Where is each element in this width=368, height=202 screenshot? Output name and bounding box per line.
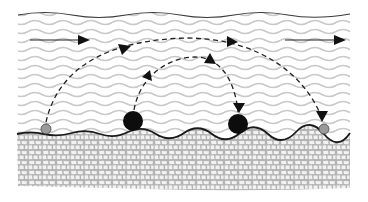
water-column (18, 13, 350, 135)
small-particle-end (319, 124, 329, 134)
large-particle-start (123, 111, 143, 131)
large-particle-end (228, 114, 248, 134)
saltation-diagram (0, 0, 368, 202)
small-particle-start (41, 124, 51, 134)
diagram-svg (0, 0, 368, 202)
sediment-bed (17, 125, 350, 190)
